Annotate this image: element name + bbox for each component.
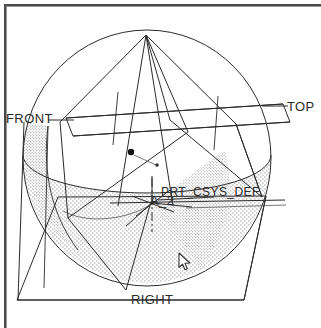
datum-plane-label-right[interactable]: RIGHT [131,293,173,306]
arrow-pointer-icon [178,252,192,272]
model-geometry[interactable] [0,0,321,328]
datum-plane-label-front[interactable]: FRONT [6,112,53,125]
coordinate-system-label[interactable]: PRT_CSYS_DEF [161,186,260,198]
datum-axis-label[interactable]: A_2 [150,194,174,207]
datum-point-small[interactable] [155,163,159,167]
datum-point-filled[interactable] [128,149,134,155]
cad-viewport[interactable]: FRONT TOP RIGHT PRT_CSYS_DEF A_2 [0,0,321,328]
datum-plane-top[interactable] [48,104,290,136]
datum-plane-label-top[interactable]: TOP [287,100,315,113]
